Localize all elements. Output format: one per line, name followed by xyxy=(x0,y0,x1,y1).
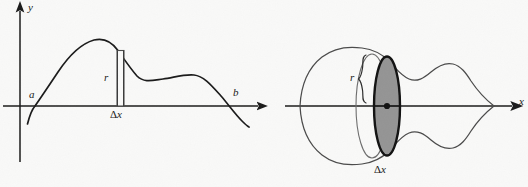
x-axis-label-right: x xyxy=(519,96,524,107)
delta-x-label-left: Δx xyxy=(110,109,122,120)
function-curve-left xyxy=(28,39,250,127)
y-axis-label: y xyxy=(28,2,33,13)
figure-svg xyxy=(0,0,528,187)
upper-limit-label-b: b xyxy=(233,87,239,98)
representative-rectangle xyxy=(117,51,124,107)
lower-limit-label-a: a xyxy=(29,89,35,100)
left-panel-graph xyxy=(3,11,258,162)
radius-label-right: r xyxy=(350,72,354,83)
delta-x-variable-left: x xyxy=(117,108,122,120)
delta-x-label-right: Δx xyxy=(374,164,386,175)
radius-label-left: r xyxy=(104,72,108,83)
figure-container: y a b r Δx r Δx x xyxy=(0,0,528,187)
radius-brace xyxy=(359,55,367,103)
delta-x-variable-right: x xyxy=(381,163,386,175)
right-panel-solid xyxy=(285,47,512,164)
